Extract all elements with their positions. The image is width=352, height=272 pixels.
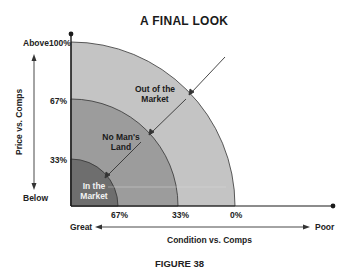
x-axis-poor-label: Poor — [315, 222, 334, 232]
y-axis-below-label: Below — [23, 193, 48, 203]
x-axis-great-label: Great — [70, 222, 92, 232]
label-in-the-market-line2: Market — [74, 191, 114, 201]
label-no-mans-land-line2: Land — [91, 142, 151, 152]
label-out-of-market-line2: Market — [125, 94, 185, 104]
price-axis-arrow — [32, 54, 37, 190]
figure-caption: FIGURE 38 — [155, 258, 204, 269]
x-axis-endpoint-dot — [331, 204, 336, 209]
x-tick-33: 33% — [172, 210, 189, 220]
label-out-of-market: Out of the Market — [125, 84, 185, 104]
label-no-mans-land-line1: No Man's — [91, 132, 151, 142]
label-in-the-market: In the Market — [74, 181, 114, 201]
condition-axis-arrow — [95, 225, 310, 230]
x-axis-title: Condition vs. Comps — [167, 235, 252, 245]
y-axis-title: Price vs. Comps — [14, 89, 24, 155]
y-axis-endpoint-dot — [69, 32, 74, 37]
label-out-of-market-line1: Out of the — [125, 84, 185, 94]
y-tick-100: 100% — [49, 38, 71, 48]
x-tick-0: 0% — [230, 210, 242, 220]
label-in-the-market-line1: In the — [74, 181, 114, 191]
label-no-mans-land: No Man's Land — [91, 132, 151, 152]
y-tick-67: 67% — [50, 96, 67, 106]
x-tick-67: 67% — [111, 210, 128, 220]
y-tick-33: 33% — [50, 155, 67, 165]
y-axis-above-label: Above — [23, 38, 49, 48]
